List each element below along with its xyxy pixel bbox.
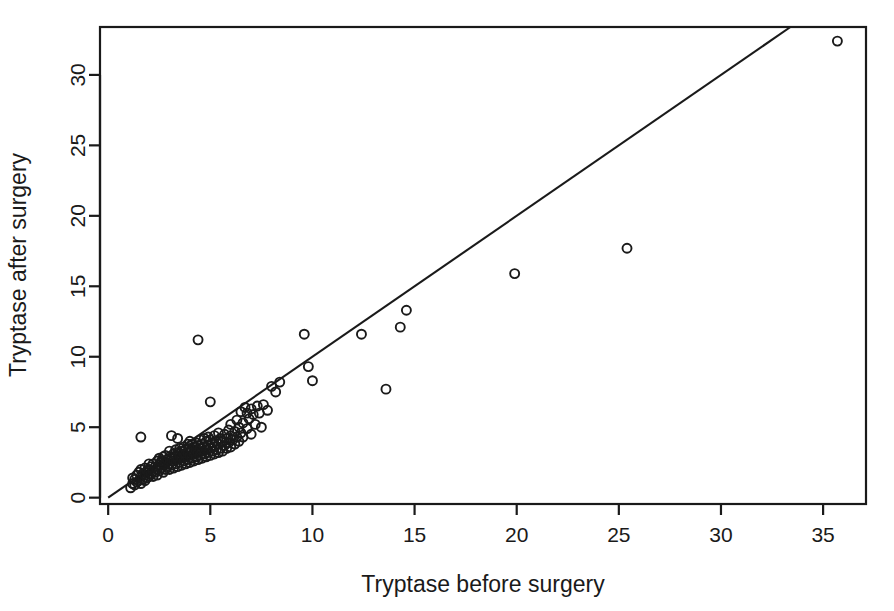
y-axis-tick-label: 20 bbox=[66, 204, 89, 227]
y-axis-tick-label: 15 bbox=[66, 275, 89, 298]
x-axis-tick-label: 35 bbox=[811, 523, 834, 546]
y-axis-tick-label: 0 bbox=[66, 492, 89, 504]
y-axis-tick-label: 30 bbox=[66, 63, 89, 86]
y-axis-title: Tryptase after surgery bbox=[5, 152, 31, 377]
x-axis-title: Tryptase before surgery bbox=[361, 571, 605, 597]
y-axis-tick-label: 5 bbox=[66, 421, 89, 433]
x-axis-tick-label: 0 bbox=[102, 523, 114, 546]
x-axis-tick-label: 15 bbox=[403, 523, 426, 546]
x-axis-tick-label: 25 bbox=[607, 523, 630, 546]
scatter-plot: 05101520253035 051015202530 Tryptase bef… bbox=[0, 0, 894, 611]
x-axis-tick-label: 5 bbox=[204, 523, 216, 546]
chart-page: 05101520253035 051015202530 Tryptase bef… bbox=[0, 0, 894, 611]
x-axis-tick-label: 20 bbox=[505, 523, 528, 546]
x-axis-tick-label: 30 bbox=[709, 523, 732, 546]
y-axis-tick-label: 25 bbox=[66, 134, 89, 157]
plot-background bbox=[0, 0, 894, 611]
x-axis-tick-label: 10 bbox=[301, 523, 324, 546]
y-axis-tick-label: 10 bbox=[66, 345, 89, 368]
